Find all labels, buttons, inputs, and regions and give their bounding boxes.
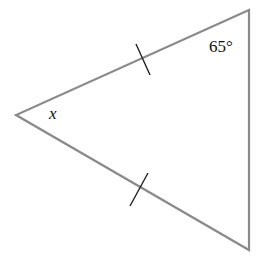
angle-label-65: 65° xyxy=(209,38,233,55)
angle-label-x: x xyxy=(49,105,57,122)
triangle-diagram: 65° x xyxy=(0,0,256,256)
